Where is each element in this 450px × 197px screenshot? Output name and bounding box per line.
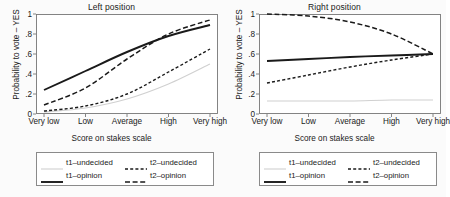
legend-swatch-icon: [264, 159, 286, 167]
y-axis-ticks-right: 0.2.4.6.81: [229, 14, 255, 114]
legend-label: t1–undecided: [66, 158, 113, 167]
legend-swatch-icon: [125, 159, 147, 167]
legend-item-t2-opinion: t2–opinion: [348, 171, 432, 180]
x-axis-ticks-right: Very lowLowAverageHighVery high: [259, 115, 441, 129]
x-axis-ticks-left: Very lowLowAverageHighVery high: [36, 115, 218, 129]
legend-label: t1–undecided: [289, 158, 336, 167]
legend-label: t2–undecided: [150, 158, 197, 167]
panel-left: Left position Probability to vote – YES …: [0, 0, 223, 197]
legend-item-t2-undecided: t2–undecided: [348, 158, 432, 167]
x-tick-label: Average: [112, 117, 142, 126]
legend-label: t1–opinion: [289, 171, 325, 180]
y-tick-label: .6: [6, 50, 32, 59]
legend-item-t2-opinion: t2–opinion: [125, 171, 209, 180]
legend-item-t1-opinion: t1–opinion: [264, 171, 348, 180]
plot-area-left: Probability to vote – YES 0.2.4.6.81 Ver…: [0, 14, 223, 118]
x-tick-label: Average: [335, 117, 365, 126]
y-tick-label: .8: [229, 30, 255, 39]
x-axis-label-left: Score on stakes scale: [0, 134, 223, 143]
legend-label: t1–opinion: [66, 171, 102, 180]
legend-swatch-icon: [41, 159, 63, 167]
legend-label: t2–opinion: [150, 171, 186, 180]
panel-right: Right position Probability to vote – YES…: [223, 0, 446, 197]
legend-row: t1–undecided t2–undecided: [41, 156, 209, 169]
y-tick-label: .6: [229, 50, 255, 59]
legend-row: t1–opinion t2–opinion: [264, 169, 432, 182]
legend-row: t1–undecided t2–undecided: [264, 156, 432, 169]
legend-label: t2–undecided: [373, 158, 420, 167]
legend-swatch-icon: [264, 172, 286, 180]
legend-item-t1-opinion: t1–opinion: [41, 171, 125, 180]
plot-svg-left: [36, 14, 218, 114]
legend-swatch-icon: [125, 172, 147, 180]
legend-item-t1-undecided: t1–undecided: [264, 158, 348, 167]
legend-label: t2–opinion: [373, 171, 409, 180]
y-tick-label: 1: [6, 10, 32, 19]
x-tick-label: Very low: [252, 117, 283, 126]
x-tick-label: Very low: [29, 117, 60, 126]
legend-swatch-icon: [41, 172, 63, 180]
x-tick-label: Very high: [416, 117, 450, 126]
y-tick-label: .2: [229, 90, 255, 99]
legend-row: t1–opinion t2–opinion: [41, 169, 209, 182]
y-tick-label: .8: [6, 30, 32, 39]
x-tick-label: Low: [78, 117, 93, 126]
x-tick-label: High: [160, 117, 177, 126]
legend-left: t1–undecided t2–undecided t1–opinion t2–…: [36, 152, 214, 186]
legend-swatch-icon: [348, 159, 370, 167]
plot-area-right: Probability to vote – YES 0.2.4.6.81 Ver…: [223, 14, 446, 118]
y-tick-label: .4: [229, 70, 255, 79]
plot-svg-right: [259, 14, 441, 114]
y-axis-ticks-left: 0.2.4.6.81: [6, 14, 32, 114]
panel-title-right: Right position: [223, 2, 446, 12]
x-tick-label: Low: [301, 117, 316, 126]
x-axis-label-right: Score on stakes scale: [223, 134, 446, 143]
legend-right: t1–undecided t2–undecided t1–opinion t2–…: [259, 152, 437, 186]
x-tick-label: High: [383, 117, 400, 126]
x-tick-label: Very high: [193, 117, 227, 126]
legend-swatch-icon: [348, 172, 370, 180]
y-tick-label: .4: [6, 70, 32, 79]
legend-item-t1-undecided: t1–undecided: [41, 158, 125, 167]
y-tick-label: 1: [229, 10, 255, 19]
panel-title-left: Left position: [0, 2, 223, 12]
y-tick-label: .2: [6, 90, 32, 99]
legend-item-t2-undecided: t2–undecided: [125, 158, 209, 167]
